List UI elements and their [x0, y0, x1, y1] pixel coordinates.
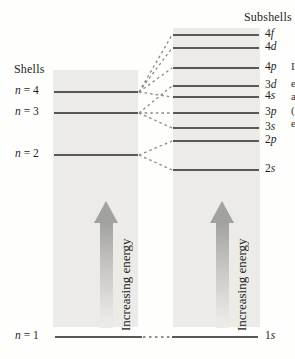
subshell-level-line — [173, 85, 259, 87]
subshell-level-line — [173, 169, 259, 171]
subshell-label-letter: p — [271, 133, 277, 145]
connector-lines-layer — [0, 0, 295, 359]
shell-subshell-connector — [139, 155, 172, 170]
subshell-level-line — [173, 34, 259, 36]
subshell-level-line — [173, 112, 259, 114]
subshell-label-letter: d — [271, 40, 277, 52]
shell-label: n = 2 — [15, 147, 39, 159]
subshell-label: 2p — [265, 133, 277, 145]
subshell-level-line — [173, 47, 259, 49]
shell-label: n = 3 — [15, 105, 39, 117]
subshell-label: 2s — [265, 162, 275, 174]
subshell-label: 3p — [265, 105, 277, 117]
subshell-label-letter: s — [271, 89, 275, 101]
subshell-level-line — [173, 96, 259, 98]
shell-level-line — [54, 154, 138, 156]
shell-level-line — [54, 112, 138, 114]
clipped-caption-fragment: a — [291, 90, 295, 102]
subshell-label-letter: s — [271, 329, 275, 341]
shell-subshell-connector — [139, 113, 172, 128]
increasing-energy-label-right: Increasing energy — [234, 227, 250, 331]
subshell-level-line — [173, 140, 259, 142]
shell-subshell-connector — [139, 92, 172, 97]
shell-subshell-connector — [139, 86, 172, 113]
clipped-caption-fragment: e — [291, 77, 295, 89]
energy-level-diagram: Shells Subshells Increasing energy Incre… — [0, 0, 295, 359]
up-arrow-shaft — [100, 222, 113, 328]
subshell-label: 3s — [265, 120, 275, 132]
n1-line-right-segment — [172, 336, 258, 338]
up-arrow-icon — [94, 201, 118, 223]
subshell-level-line — [173, 127, 259, 129]
subshell-label-letter: p — [271, 105, 277, 117]
clipped-caption-fragment: ( — [291, 104, 295, 116]
n1-line-left-segment — [55, 336, 142, 338]
shell-label-value: = 4 — [21, 84, 39, 96]
shell-subshell-connector — [139, 68, 172, 92]
shell-label: n = 4 — [15, 84, 39, 96]
subshell-label: 4p — [265, 60, 277, 72]
shell-label: n = 1 — [15, 329, 39, 341]
clipped-caption-fragment: I — [291, 60, 295, 72]
clipped-caption-fragment: e — [291, 117, 295, 129]
subshell-label: 1s — [265, 329, 275, 341]
shell-label-value: = 2 — [21, 147, 39, 159]
up-arrow-shaft — [216, 222, 229, 328]
subshell-label-letter: p — [271, 60, 277, 72]
shell-subshell-connector — [139, 48, 172, 92]
subshell-label: 4f — [265, 27, 274, 39]
shell-label-value: = 1 — [21, 329, 39, 341]
subshell-label-letter: s — [271, 162, 275, 174]
shell-subshell-connector — [139, 35, 172, 92]
increasing-energy-label-left: Increasing energy — [118, 227, 134, 331]
subshell-label-letter: f — [271, 27, 274, 39]
shell-label-value: = 3 — [21, 105, 39, 117]
shell-subshell-connector — [139, 141, 172, 155]
subshell-label: 4s — [265, 89, 275, 101]
subshell-label-letter: s — [271, 120, 275, 132]
subshell-level-line — [173, 67, 259, 69]
shell-level-line — [54, 91, 138, 93]
up-arrow-icon — [210, 201, 234, 223]
subshell-label: 4d — [265, 40, 277, 52]
